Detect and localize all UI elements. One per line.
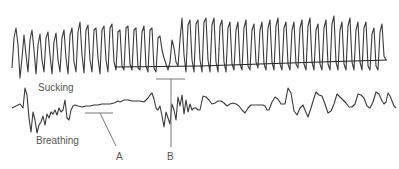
marker-b-label: B: [167, 152, 174, 162]
sucking-breathing-diagram: Sucking Breathing A B: [0, 0, 399, 169]
sucking-label: Sucking: [38, 83, 74, 93]
marker-b: [156, 79, 185, 147]
marker-a-label: A: [116, 152, 123, 162]
sucking-trace: [12, 16, 386, 78]
breathing-trace: [12, 88, 396, 133]
marker-a: [85, 113, 116, 146]
breathing-label: Breathing: [36, 136, 79, 146]
